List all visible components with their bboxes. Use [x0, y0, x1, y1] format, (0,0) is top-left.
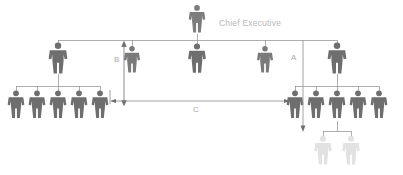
annotation-a-label: A: [291, 53, 297, 62]
figure-manager-2: [124, 46, 140, 72]
org-chart-diagram: B A C Chief Executive: [0, 0, 403, 175]
figure-staff-right-2: [308, 90, 325, 118]
annotation-c-label: C: [193, 105, 199, 114]
figure-ghost-1: [314, 136, 331, 165]
annotation-b-measure: [122, 42, 126, 106]
figure-manager-4: [257, 46, 273, 72]
chief-executive-label: Chief Executive: [219, 18, 281, 28]
annotation-b-arrow-up: [122, 42, 126, 47]
figure-ghost-2: [342, 136, 359, 165]
figure-staff-right-1: [287, 90, 304, 118]
figure-staff-left-2: [29, 90, 46, 118]
figure-manager-1: [49, 43, 68, 74]
figure-chief-executive: [189, 5, 206, 32]
diagram-canvas: B A C Chief Executive: [0, 0, 403, 175]
annotation-c-measure: [110, 90, 290, 104]
figure-staff-right-3: [329, 90, 346, 118]
figure-staff-left-5: [92, 90, 109, 118]
annotation-a-arrow-down: [301, 126, 306, 133]
figure-staff-left-1: [8, 90, 25, 118]
figure-staff-right-4: [350, 90, 367, 118]
figure-manager-3: [188, 43, 206, 72]
figure-staff-left-3: [50, 90, 67, 118]
figure-staff-right-5: [371, 90, 388, 118]
annotation-b-label: B: [114, 55, 119, 64]
figure-staff-left-4: [71, 90, 88, 118]
figure-manager-6: [328, 43, 347, 74]
annotation-c-arrow-left: [110, 99, 116, 103]
